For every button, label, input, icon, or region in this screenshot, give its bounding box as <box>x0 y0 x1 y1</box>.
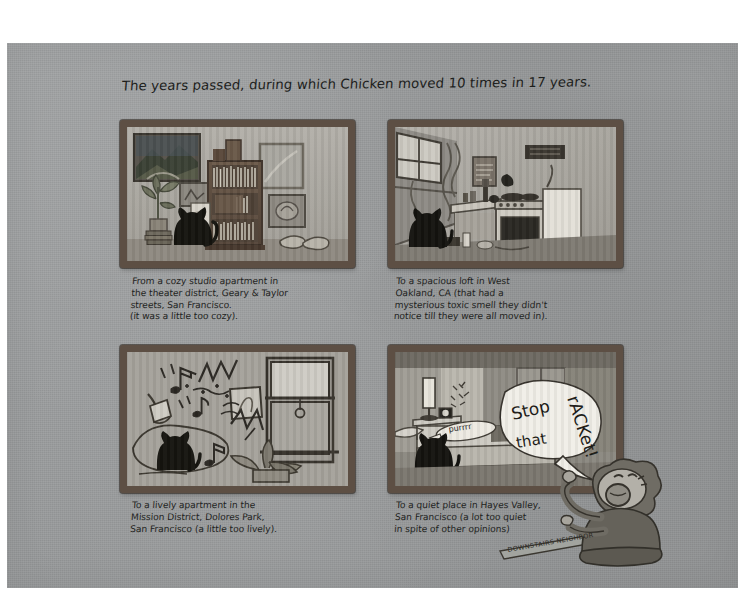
panel-2 <box>388 120 623 268</box>
panel-2-caption: To a spacious loft in West Oakland, CA (… <box>393 276 636 323</box>
panel-1-frame <box>120 120 355 268</box>
panel-2-frame <box>388 120 623 268</box>
downstairs-neighbor: DOWNSTAIRS NEIGHBOR <box>498 455 698 585</box>
comic-page: The years passed, during which Chicken m… <box>0 0 743 616</box>
panel-1-caption: From a cozy studio apartment in the thea… <box>129 276 357 323</box>
panel-3-art <box>127 352 348 486</box>
panel-1 <box>120 120 355 268</box>
panel-1-art <box>127 127 348 261</box>
panel-3 <box>120 345 355 493</box>
panel-3-frame <box>120 345 355 493</box>
panel-2-art <box>395 127 616 261</box>
panel-3-caption: To a lively apartment in the Mission Dis… <box>130 500 362 535</box>
